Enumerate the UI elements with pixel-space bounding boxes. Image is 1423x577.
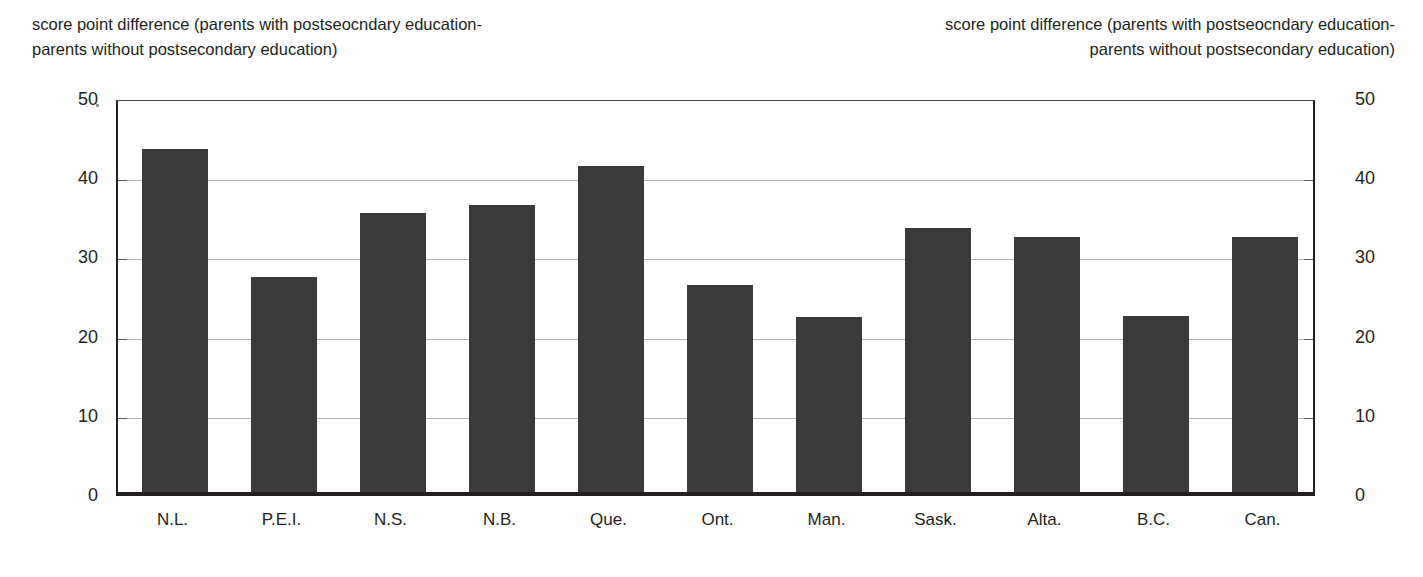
y-tick-label-left: 40 — [38, 169, 98, 187]
bar — [469, 205, 535, 492]
x-tick-label: Can. — [1203, 510, 1323, 529]
y-tick-label-right: 0 — [1355, 486, 1415, 504]
bar — [1123, 316, 1189, 492]
x-tick-label: P.E.I. — [222, 510, 342, 529]
x-tick-label: N.B. — [440, 510, 560, 529]
bar — [1232, 237, 1298, 492]
x-tick-label: Sask. — [876, 510, 996, 529]
bar — [578, 166, 644, 492]
y-tick-label-right: 30 — [1355, 248, 1415, 266]
x-tick-label: Ont. — [658, 510, 778, 529]
bar — [142, 149, 208, 492]
y-tick-label-left: 20 — [38, 328, 98, 346]
bar — [360, 213, 426, 492]
x-tick-label: Que. — [549, 510, 669, 529]
y-tick-label-right: 10 — [1355, 407, 1415, 425]
y-tick-label-left: 0 — [38, 486, 98, 504]
bar — [796, 317, 862, 492]
x-tick-label: B.C. — [1094, 510, 1214, 529]
x-tick-label: N.S. — [331, 510, 451, 529]
plot-area — [116, 100, 1315, 496]
y-tick-label-left: 10 — [38, 407, 98, 425]
x-tick-label: Man. — [767, 510, 887, 529]
y-tick-label-right: 20 — [1355, 328, 1415, 346]
y-tick-label-left: 50 — [38, 90, 98, 108]
x-tick-label: Alta. — [985, 510, 1105, 529]
bar — [687, 285, 753, 492]
bar-series — [118, 101, 1313, 492]
y-tick-label-right: 50 — [1355, 90, 1415, 108]
bar-chart: 01020304050 01020304050 N.L.P.E.I.N.S.N.… — [0, 0, 1423, 577]
bar — [251, 277, 317, 492]
x-tick-label: N.L. — [113, 510, 233, 529]
y-tick-label-right: 40 — [1355, 169, 1415, 187]
y-tick-label-left: 30 — [38, 248, 98, 266]
bar — [1014, 237, 1080, 492]
bar — [905, 228, 971, 492]
